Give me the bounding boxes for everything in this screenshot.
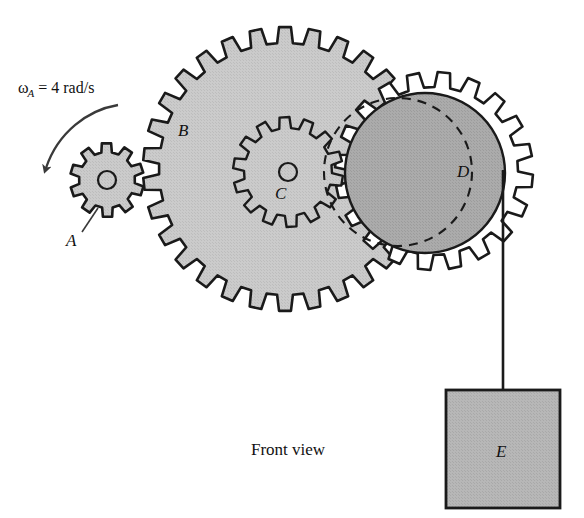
- drum-d-label: D: [457, 163, 469, 180]
- gear-a: [71, 143, 144, 217]
- omega-subscript: A: [28, 87, 35, 99]
- figure-caption: Front view: [251, 441, 325, 458]
- angular-velocity-label: ωA = 4 rad/s: [18, 80, 94, 99]
- block-e-label: E: [496, 443, 506, 460]
- omega-value: = 4 rad/s: [38, 79, 94, 96]
- gear-a-label: A: [66, 232, 76, 249]
- gear-a-hub: [98, 171, 116, 189]
- gear-b-label: B: [178, 122, 188, 139]
- omega-symbol: ω: [18, 79, 29, 96]
- gear-c-hub: [279, 163, 297, 181]
- drum-d: [345, 93, 505, 253]
- gear-train-figure: ωA = 4 rad/s A B C D E Front view: [0, 0, 584, 518]
- gear-c-label: C: [275, 185, 286, 202]
